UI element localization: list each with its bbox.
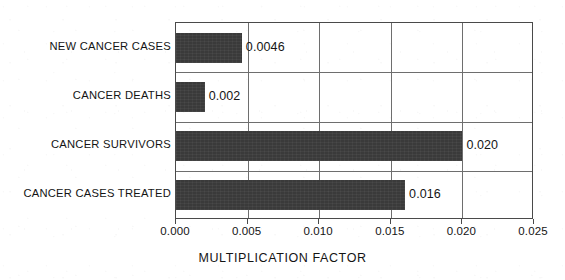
category-label: CANCER SURVIVORS bbox=[0, 139, 171, 150]
category-label: CANCER CASES TREATED bbox=[0, 188, 171, 199]
bar bbox=[176, 82, 205, 112]
horizontal-gridline bbox=[176, 72, 532, 73]
x-axis-tick-mark bbox=[175, 219, 176, 224]
x-axis-tick-mark bbox=[247, 219, 248, 224]
category-label: NEW CANCER CASES bbox=[0, 41, 171, 52]
horizontal-gridline bbox=[176, 122, 532, 123]
category-label: CANCER DEATHS bbox=[0, 90, 171, 101]
bar-chart: NEW CANCER CASESCANCER DEATHSCANCER SURV… bbox=[0, 0, 565, 280]
bar-value-label: 0.002 bbox=[209, 90, 241, 103]
x-axis-tick-mark bbox=[318, 219, 319, 224]
bar bbox=[176, 131, 462, 161]
horizontal-gridline bbox=[176, 171, 532, 172]
x-axis-tick-label: 0.020 bbox=[447, 226, 476, 238]
x-axis-tick-label: 0.010 bbox=[304, 226, 333, 238]
x-axis-tick-label: 0.015 bbox=[375, 226, 404, 238]
x-axis-tick-label: 0.025 bbox=[518, 226, 547, 238]
bar bbox=[176, 33, 242, 63]
x-axis-tick-mark bbox=[390, 219, 391, 224]
bar-value-label: 0.0046 bbox=[246, 41, 285, 54]
bar-value-label: 0.016 bbox=[409, 188, 441, 201]
x-axis-tick-label: 0.005 bbox=[232, 226, 261, 238]
bar bbox=[176, 180, 405, 210]
plot-area bbox=[175, 22, 533, 219]
x-axis-title: MULTIPLICATION FACTOR bbox=[0, 252, 565, 265]
bar-value-label: 0.020 bbox=[466, 139, 498, 152]
x-axis-tick-mark bbox=[461, 219, 462, 224]
x-axis-tick-label: 0.000 bbox=[160, 226, 189, 238]
vertical-gridline bbox=[462, 23, 463, 218]
x-axis-tick-mark bbox=[533, 219, 534, 224]
